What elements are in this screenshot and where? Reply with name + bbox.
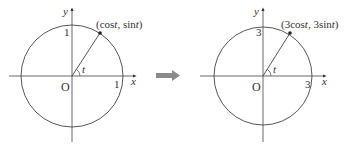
x-tick-label: 3 xyxy=(305,78,311,90)
origin-label: O xyxy=(252,80,261,94)
scaled-circle-diagram: y x O 3 3 t (3cost, 3sint) xyxy=(200,5,339,142)
y-axis-label: y xyxy=(62,5,68,17)
x-axis-label: x xyxy=(130,75,136,87)
radius-line xyxy=(263,33,290,76)
angle-label: t xyxy=(82,63,86,75)
angle-arc xyxy=(76,69,80,76)
y-tick-label: 3 xyxy=(256,26,262,38)
y-axis-label: y xyxy=(253,5,259,17)
unit-circle-diagram: y x O 1 1 t (cost, sint) xyxy=(9,5,143,142)
y-tick-label: 1 xyxy=(64,26,70,38)
point-label: (3cost, 3sint) xyxy=(281,18,339,31)
x-axis-label: x xyxy=(321,75,327,87)
radius-line xyxy=(72,33,100,76)
angle-arc xyxy=(267,69,271,76)
point-marker xyxy=(98,31,102,35)
angle-label: t xyxy=(273,63,277,75)
x-tick-label: 1 xyxy=(114,78,120,90)
origin-label: O xyxy=(61,80,70,94)
parametric-circle-diagram: y x O 1 1 t (cost, sint) y x O 3 3 t (3c… xyxy=(0,0,356,154)
point-label: (cost, sint) xyxy=(96,18,143,31)
transform-arrow-icon xyxy=(156,70,180,81)
point-marker xyxy=(288,31,292,35)
